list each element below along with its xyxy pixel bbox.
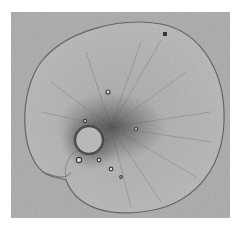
micrograph-field <box>11 12 230 218</box>
cell-illustration <box>11 12 230 218</box>
